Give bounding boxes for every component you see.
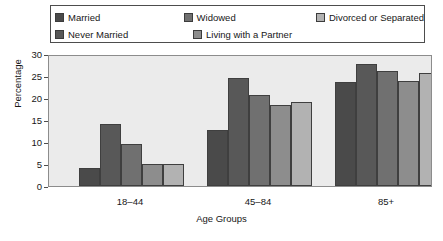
legend-label: Widowed <box>197 13 236 23</box>
bar-chart-figure: Married Widowed Divorced or Separated Ne… <box>0 0 443 241</box>
x-axis-group-label: 85+ <box>346 196 426 207</box>
bar <box>335 82 356 186</box>
bar <box>163 164 184 186</box>
bar <box>270 105 291 186</box>
y-axis-tick-mark <box>44 187 48 188</box>
legend-label: Married <box>68 13 100 23</box>
legend-item-widowed: Widowed <box>184 13 316 23</box>
legend-item-married: Married <box>55 13 184 23</box>
bar <box>291 102 312 186</box>
legend-label: Divorced or Separated <box>329 13 424 23</box>
y-axis-tick-label: 15 <box>31 115 42 126</box>
bar <box>79 168 100 186</box>
bar <box>356 64 377 186</box>
legend-swatch-icon <box>316 13 325 22</box>
chart-legend: Married Widowed Divorced or Separated Ne… <box>50 5 425 43</box>
bar <box>249 95 270 186</box>
legend-row: Never Married Living with a Partner <box>55 26 424 43</box>
y-axis-tick-label: 0 <box>37 181 42 192</box>
legend-item-never-married: Never Married <box>55 30 193 40</box>
y-axis: 051015202530 <box>0 55 48 187</box>
bar <box>142 164 163 186</box>
legend-label: Never Married <box>68 30 128 40</box>
bar <box>398 81 419 186</box>
plot-area <box>48 55 432 187</box>
legend-swatch-icon <box>184 13 193 22</box>
y-axis-title: Percentage <box>12 24 23 144</box>
bar <box>377 71 398 186</box>
legend-swatch-icon <box>193 30 202 39</box>
legend-row: Married Widowed Divorced or Separated <box>55 9 424 26</box>
bar <box>419 73 433 186</box>
bar <box>100 124 121 186</box>
bars-container <box>49 56 431 186</box>
legend-swatch-icon <box>55 13 64 22</box>
y-axis-tick-label: 5 <box>37 159 42 170</box>
x-axis-group-label: 18–44 <box>90 196 170 207</box>
legend-swatch-icon <box>55 30 64 39</box>
bar <box>207 130 228 186</box>
x-axis-group-label: 45–84 <box>218 196 298 207</box>
legend-item-living-with-a-partner: Living with a Partner <box>193 30 335 40</box>
y-axis-tick-label: 10 <box>31 137 42 148</box>
legend-item-divorced-or-separated: Divorced or Separated <box>316 13 424 23</box>
y-axis-tick-label: 30 <box>31 49 42 60</box>
legend-label: Living with a Partner <box>206 30 292 40</box>
bar <box>228 78 249 186</box>
y-axis-tick-label: 20 <box>31 93 42 104</box>
x-axis-title: Age Groups <box>0 213 443 224</box>
y-axis-tick-label: 25 <box>31 71 42 82</box>
bar <box>121 144 142 186</box>
